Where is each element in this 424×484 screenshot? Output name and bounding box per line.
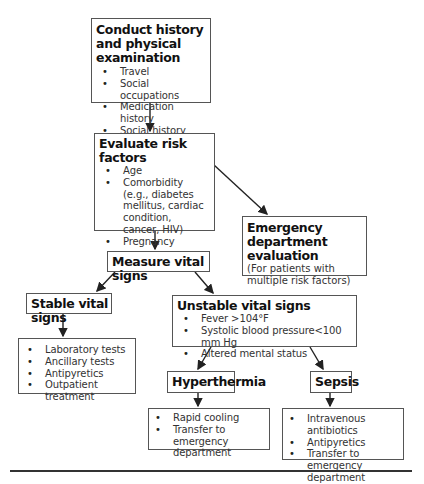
- list-item: Altered mental status: [177, 348, 352, 360]
- node-risk: Evaluate risk factors Age Comorbidity (e…: [94, 133, 215, 231]
- arrow-risk-to-ed: [214, 165, 267, 214]
- node-ed-note: (For patients with multiple risk factors…: [247, 263, 362, 287]
- bottom-divider: [10, 470, 412, 472]
- node-stable-actions: Laboratory tests Ancillary tests Antipyr…: [18, 338, 136, 394]
- list-item: Transfer to emergency department: [149, 424, 267, 459]
- node-hyperthermia: Hyperthermia: [167, 371, 235, 393]
- list-item: Antipyretics: [21, 368, 133, 380]
- list-item: Ancillary tests: [21, 356, 133, 368]
- node-stable: Stable vital signs: [26, 293, 112, 314]
- list-item: Transfer to emergency department: [283, 448, 401, 483]
- list-item: Pregnancy: [99, 236, 210, 248]
- list-item: Rapid cooling: [149, 412, 267, 424]
- node-history: Conduct history and physical examination…: [91, 18, 211, 103]
- list-item: Social occupations: [96, 78, 206, 102]
- list-item: Comorbidity (e.g., diabetes mellitus, ca…: [99, 177, 210, 236]
- list-item: Travel: [96, 66, 206, 78]
- list-item: Age: [99, 165, 210, 177]
- list-item: Antipyretics: [283, 437, 401, 449]
- node-measure: Measure vital signs: [107, 251, 210, 272]
- list-item: Fever >104°F: [177, 313, 352, 325]
- node-history-title: Conduct history and physical examination: [96, 23, 206, 65]
- node-sepsis: Sepsis: [310, 371, 352, 393]
- list-item: Systolic blood pressure<100 mm Hg: [177, 325, 352, 349]
- node-risk-title: Evaluate risk factors: [99, 137, 210, 165]
- node-ed-title: Emergency department evaluation: [247, 221, 362, 263]
- list-item: Medication history: [96, 101, 206, 125]
- node-unstable-title: Unstable vital signs: [177, 299, 352, 313]
- node-sepsis-title: Sepsis: [315, 375, 348, 389]
- list-item: Intravenous antibiotics: [283, 413, 401, 437]
- node-stable-title: Stable vital signs: [31, 297, 108, 325]
- list-item: Laboratory tests: [21, 344, 133, 356]
- node-hyperthermia-actions: Rapid cooling Transfer to emergency depa…: [148, 408, 270, 450]
- node-ed-evaluation: Emergency department evaluation (For pat…: [242, 216, 367, 276]
- node-measure-title: Measure vital signs: [112, 255, 206, 283]
- node-unstable: Unstable vital signs Fever >104°F Systol…: [172, 295, 357, 347]
- node-sepsis-actions: Intravenous antibiotics Antipyretics Tra…: [282, 408, 404, 460]
- node-hyperthermia-title: Hyperthermia: [172, 375, 231, 389]
- list-item: Outpatient treatment: [21, 379, 133, 403]
